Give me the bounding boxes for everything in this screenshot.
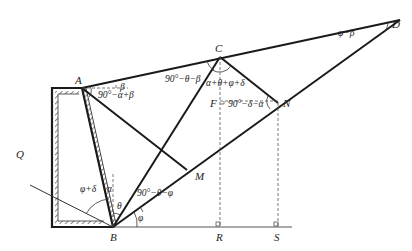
wedge-force-diagram: A B C D N M F R S Q β 90°−α+β 90°−θ−β α+… xyxy=(0,0,412,251)
angle-D: φ−β xyxy=(338,28,355,38)
label-R: R xyxy=(215,231,223,243)
label-S: S xyxy=(274,231,280,243)
label-M: M xyxy=(194,170,205,182)
angle-B-alpha: α xyxy=(107,184,113,194)
angle-B-phi-delta: φ+δ xyxy=(80,184,97,194)
label-N: N xyxy=(282,97,291,109)
angle-C-main: α+θ+φ+δ xyxy=(206,78,245,88)
angle-C-left: 90°−θ−β xyxy=(165,74,201,84)
angle-A-main: 90°−α+β xyxy=(98,90,134,100)
label-Q: Q xyxy=(16,148,24,160)
angle-B-phi: φ xyxy=(138,213,143,223)
label-F: F xyxy=(209,97,217,109)
retaining-wall xyxy=(52,88,116,227)
angle-B-mid: 90°−θ−φ xyxy=(137,188,173,198)
label-C: C xyxy=(215,42,223,54)
force-lines xyxy=(82,20,400,227)
angle-N: 90°−δ−α xyxy=(228,99,265,109)
angle-B-theta: θ xyxy=(117,201,122,211)
label-A: A xyxy=(74,74,82,86)
label-D: D xyxy=(391,18,400,30)
label-B: B xyxy=(110,231,117,243)
